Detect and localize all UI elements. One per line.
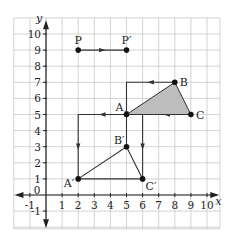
- point-label-b: B: [180, 76, 188, 89]
- point-p-prime: [124, 47, 130, 53]
- coordinate-plane: -112345678910-1123456789100xy PP′ABCA′B′…: [0, 0, 232, 242]
- point-a: [124, 112, 130, 118]
- point-label-b-prime: B′: [114, 134, 125, 147]
- y-tick-label: 5: [34, 109, 41, 121]
- x-tick-label: 10: [200, 199, 213, 211]
- y-tick-label: 6: [34, 92, 41, 104]
- point-label-c-prime: C′: [146, 180, 157, 193]
- x-tick-label: 3: [91, 199, 98, 211]
- x-tick-label: 6: [139, 199, 146, 211]
- origin-label: 0: [34, 184, 41, 196]
- point-b: [172, 80, 178, 86]
- y-axis-arrow-down-icon: [43, 219, 49, 228]
- point-label-c: C: [196, 109, 204, 122]
- y-tick-label: 10: [28, 28, 41, 40]
- direction-arrow-icon: [99, 112, 105, 116]
- y-tick-label: 2: [34, 157, 41, 169]
- y-tick-label: -1: [31, 205, 41, 217]
- y-tick-label: 3: [34, 141, 41, 153]
- y-axis-arrow-up-icon: [43, 20, 49, 29]
- x-axis-label: x: [215, 195, 222, 208]
- point-b-prime: [124, 144, 130, 150]
- point-c: [188, 112, 194, 118]
- y-tick-label: 9: [34, 44, 41, 56]
- y-tick-label: 8: [34, 60, 41, 72]
- point-label-p-prime: P′: [122, 34, 132, 47]
- x-tick-label: 9: [188, 199, 195, 211]
- grid: [14, 18, 220, 229]
- y-tick-label: 7: [34, 76, 41, 88]
- x-tick-label: 7: [155, 199, 162, 211]
- direction-arrow-icon: [99, 48, 105, 52]
- x-tick-label: 5: [123, 199, 130, 211]
- point-a-prime: [75, 176, 81, 182]
- point-label-a: A: [115, 101, 125, 114]
- x-tick-label: 4: [107, 199, 114, 211]
- point-c-prime: [140, 176, 146, 182]
- direction-arrow-icon: [147, 80, 153, 84]
- point-p: [75, 47, 81, 53]
- x-tick-label: 1: [59, 199, 66, 211]
- y-tick-label: 4: [34, 125, 41, 137]
- y-axis-label: y: [35, 12, 43, 25]
- point-label-p: P: [74, 34, 82, 47]
- x-axis-arrow-left-icon: [15, 192, 24, 198]
- x-tick-label: 2: [75, 199, 82, 211]
- point-label-a-prime: A′: [63, 177, 75, 190]
- x-tick-label: 8: [171, 199, 178, 211]
